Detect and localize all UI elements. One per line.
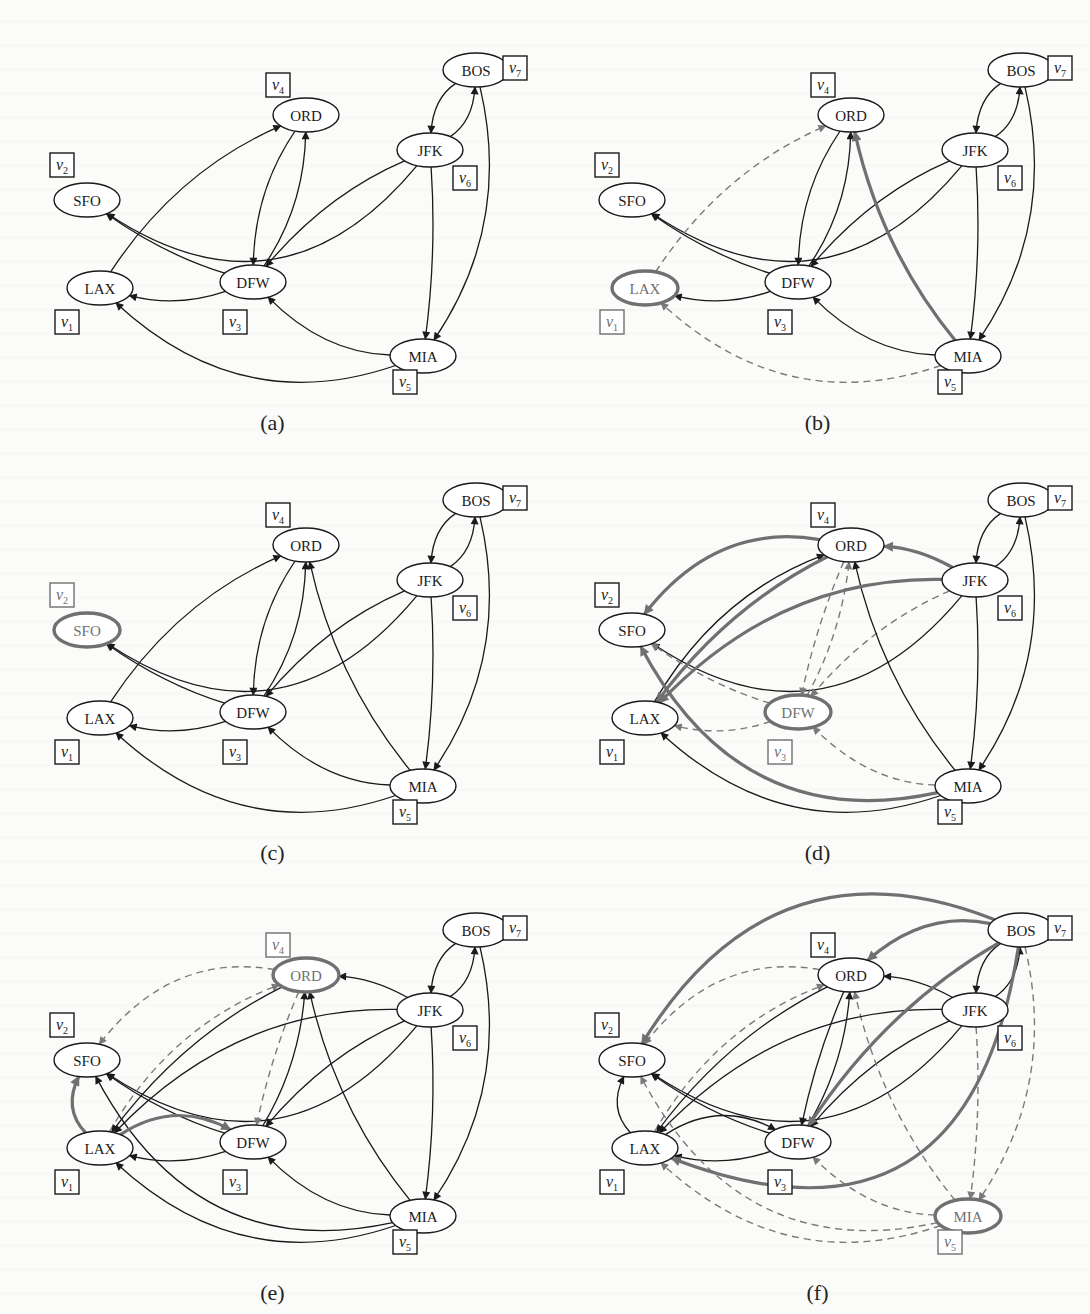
node-label: JFK [962, 1003, 987, 1019]
node-lax: LAX [67, 271, 133, 305]
edge-mia-to-dfw [268, 1157, 390, 1215]
node-dfw: DFW [220, 265, 286, 299]
vertex-order-label-v5: v5 [393, 370, 417, 394]
node-lax: LAX [612, 701, 678, 735]
node-label: BOS [1006, 63, 1035, 79]
edge-jfk-to-mia [425, 167, 433, 339]
vertex-order-label-v5: v5 [393, 800, 417, 824]
vertex-order-label-v5: v5 [938, 800, 962, 824]
edge-jfk-to-ord [884, 546, 953, 567]
edge-mia-to-lax [116, 303, 396, 382]
edge-dfw-to-sfo [106, 644, 224, 703]
node-label: BOS [461, 923, 490, 939]
edge-jfk-to-mia [425, 597, 433, 769]
edge-mia-to-ord [855, 562, 955, 770]
node-label: ORD [290, 538, 322, 554]
edge-mia-to-dfw [813, 297, 935, 355]
vertex-order-label-v6: v6 [453, 1026, 477, 1050]
node-sfo: SFO [54, 1043, 120, 1077]
node-label: SFO [73, 1053, 101, 1069]
graph-canvas: LAXv1SFOv2DFWv3ORDv4MIAv5JFKv6BOSv7 [545, 430, 1090, 860]
node-label: SFO [73, 193, 101, 209]
node-label: DFW [781, 275, 815, 291]
vertex-order-label-v6: v6 [453, 166, 477, 190]
edge-jfk-to-bos [995, 517, 1020, 567]
edge-dfw-to-lax [130, 291, 226, 300]
edge-bos-to-mia [434, 517, 490, 770]
vertex-order-label-v2: v2 [50, 153, 74, 177]
node-bos: BOS [443, 913, 509, 947]
node-label: ORD [835, 968, 867, 984]
vertex-order-label-v6: v6 [453, 596, 477, 620]
edge-dfw-to-lax [130, 1151, 226, 1160]
edge-mia-to-ord [855, 132, 955, 340]
node-ord: ORD [818, 528, 884, 562]
edge-bos-to-ord [868, 921, 991, 961]
graph-canvas: LAXv1SFOv2DFWv3ORDv4MIAv5JFKv6BOSv7 [545, 0, 1090, 430]
graph-canvas: LAXv1SFOv2DFWv3ORDv4MIAv5JFKv6BOSv7 [0, 430, 545, 860]
node-label: ORD [835, 108, 867, 124]
nodes: LAXv1SFOv2DFWv3ORDv4MIAv5JFKv6BOSv7 [595, 483, 1072, 824]
node-jfk: JFK [397, 133, 463, 167]
figure-panel-d: LAXv1SFOv2DFWv3ORDv4MIAv5JFKv6BOSv7 (d) [545, 430, 1090, 860]
edge-mia-to-ord [310, 992, 410, 1200]
edge-jfk-to-mia [970, 167, 978, 339]
vertex-order-label-v6: v6 [998, 596, 1022, 620]
vertex-order-label-v6: v6 [998, 166, 1022, 190]
node-label: MIA [953, 349, 982, 365]
edge-jfk-to-bos [450, 87, 475, 137]
edge-bos-to-jfk [431, 513, 456, 563]
edge-bos-to-jfk [431, 943, 456, 993]
node-label: JFK [962, 573, 987, 589]
edge-bos-to-mia [979, 947, 1035, 1200]
node-label: LAX [630, 711, 661, 727]
vertex-order-label-v1: v1 [600, 740, 624, 764]
node-label: MIA [408, 779, 437, 795]
edge-ord-to-dfw [253, 131, 295, 265]
figure-panel-f: LAXv1SFOv2DFWv3ORDv4MIAv5JFKv6BOSv7 (f) [545, 860, 1090, 1290]
node-label: BOS [461, 493, 490, 509]
edge-jfk-to-sfo [107, 1026, 417, 1122]
edge-mia-to-ord [310, 562, 410, 770]
node-lax: LAX [612, 1131, 678, 1165]
edge-mia-to-ord [855, 992, 955, 1200]
edge-jfk-to-bos [450, 517, 475, 567]
node-jfk: JFK [397, 563, 463, 597]
vertex-order-label-v3: v3 [223, 740, 247, 764]
node-label: LAX [85, 1141, 116, 1157]
node-label: MIA [408, 349, 437, 365]
edge-jfk-to-lax [660, 1009, 943, 1132]
edge-bos-to-mia [979, 517, 1035, 770]
node-bos: BOS [443, 53, 509, 87]
vertex-order-label-v4: v4 [811, 503, 835, 527]
node-lax: LAX [67, 1131, 133, 1165]
edge-dfw-to-sfo [651, 214, 769, 273]
vertex-order-label-v4: v4 [266, 73, 290, 97]
vertex-order-label-v3: v3 [768, 1170, 792, 1194]
node-bos: BOS [443, 483, 509, 517]
node-label: JFK [417, 1003, 442, 1019]
vertex-order-label-v2: v2 [595, 1013, 619, 1037]
node-label: DFW [236, 1135, 270, 1151]
node-sfo: SFO [599, 183, 665, 217]
node-ord: ORD [818, 958, 884, 992]
edge-bos-to-jfk [976, 513, 1001, 563]
graph-canvas: LAXv1SFOv2DFWv3ORDv4MIAv5JFKv6BOSv7 [545, 860, 1090, 1290]
node-label: BOS [1006, 493, 1035, 509]
edge-dfw-to-ord [807, 562, 849, 696]
node-label: SFO [618, 623, 646, 639]
node-label: SFO [73, 623, 101, 639]
graph-canvas: LAXv1SFOv2DFWv3ORDv4MIAv5JFKv6BOSv7 [0, 860, 545, 1290]
edge-jfk-to-mia [425, 1027, 433, 1199]
edge-ord-to-dfw [253, 561, 295, 695]
node-mia: MIA [390, 769, 456, 803]
edge-jfk-to-sfo [107, 596, 417, 692]
vertex-order-label-v3: v3 [768, 310, 792, 334]
node-mia: MIA [390, 339, 456, 373]
node-ord: ORD [273, 958, 339, 992]
node-bos: BOS [988, 913, 1054, 947]
node-dfw: DFW [765, 265, 831, 299]
figure-panel-b: LAXv1SFOv2DFWv3ORDv4MIAv5JFKv6BOSv7 (b) [545, 0, 1090, 430]
edge-lax-to-ord [111, 556, 281, 702]
vertex-order-label-v7: v7 [503, 916, 527, 940]
